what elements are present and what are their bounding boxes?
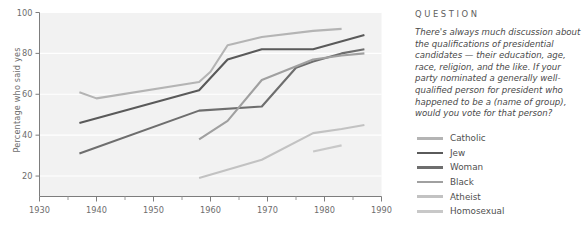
question-heading: QUESTION — [415, 9, 480, 19]
chart-legend: CatholicJewWomanBlackAtheistHomosexual — [417, 131, 585, 219]
legend-swatch-woman — [417, 166, 443, 169]
legend-item-homosexual[interactable]: Homosexual — [417, 204, 585, 219]
legend-label: Atheist — [450, 192, 481, 202]
line-chart-svg: 204060801001930194019501960197019801990 — [0, 0, 392, 240]
legend-item-catholic[interactable]: Catholic — [417, 131, 585, 146]
svg-text:1930: 1930 — [29, 205, 50, 215]
legend-swatch-catholic — [417, 137, 443, 140]
svg-text:20: 20 — [22, 171, 32, 181]
svg-text:80: 80 — [22, 48, 32, 58]
plot-background — [40, 13, 382, 197]
legend-label: Catholic — [450, 133, 486, 143]
svg-text:40: 40 — [22, 130, 32, 140]
legend-item-black[interactable]: Black — [417, 175, 585, 190]
legend-label: Woman — [450, 162, 483, 172]
legend-item-jew[interactable]: Jew — [417, 146, 585, 161]
svg-text:1990: 1990 — [371, 205, 392, 215]
svg-text:1970: 1970 — [257, 205, 278, 215]
legend-swatch-jew — [417, 152, 443, 155]
chart-page: 204060801001930194019501960197019801990 … — [0, 0, 586, 240]
legend-item-atheist[interactable]: Atheist — [417, 189, 585, 204]
legend-swatch-homosexual — [417, 210, 443, 213]
svg-text:1950: 1950 — [143, 205, 164, 215]
svg-text:1980: 1980 — [314, 205, 335, 215]
question-text: There's always much discussion about the… — [415, 27, 585, 120]
side-panel: QUESTION There's always much discussion … — [415, 0, 586, 240]
svg-text:100: 100 — [17, 8, 33, 18]
svg-text:1940: 1940 — [86, 205, 107, 215]
legend-label: Jew — [450, 148, 465, 158]
legend-label: Homosexual — [450, 206, 504, 216]
svg-text:60: 60 — [22, 89, 32, 99]
svg-text:1960: 1960 — [200, 205, 221, 215]
legend-item-woman[interactable]: Woman — [417, 160, 585, 175]
legend-swatch-black — [417, 181, 443, 184]
y-axis-title: Percentage who said yes — [12, 25, 22, 175]
legend-swatch-atheist — [417, 195, 443, 198]
legend-label: Black — [450, 177, 474, 187]
chart-panel: 204060801001930194019501960197019801990 … — [0, 0, 392, 240]
